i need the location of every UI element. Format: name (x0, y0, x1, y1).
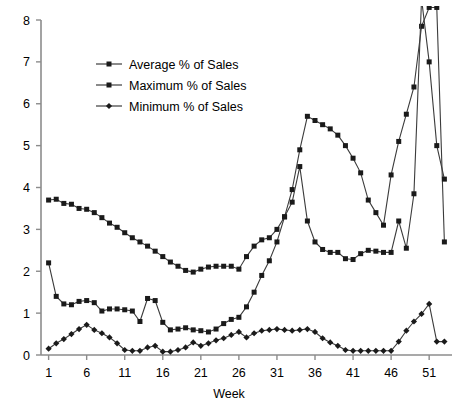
data-point (267, 258, 272, 263)
data-point (351, 257, 356, 262)
data-point (328, 126, 333, 131)
data-point (160, 254, 165, 259)
data-point (77, 206, 82, 211)
x-axis-tick-label: 31 (270, 366, 284, 380)
data-point (290, 200, 295, 205)
data-point (343, 256, 348, 261)
data-point (153, 298, 158, 303)
data-point (130, 309, 135, 314)
data-point (221, 264, 226, 269)
data-point (328, 250, 333, 255)
data-point (358, 170, 363, 175)
chart-container: 012345678 16111621263136414651 Average %… (0, 0, 459, 405)
data-point (153, 249, 158, 254)
data-point (137, 319, 142, 324)
data-point (305, 114, 310, 119)
data-point (168, 260, 173, 265)
x-axis-tick-label: 11 (118, 366, 131, 380)
data-point (373, 210, 378, 215)
data-point (297, 147, 302, 152)
data-point (404, 246, 409, 251)
y-axis-tick-label: 8 (23, 14, 30, 28)
x-axis-tick-label: 1 (45, 366, 52, 380)
data-point (61, 301, 66, 306)
data-point (191, 270, 196, 275)
data-point (313, 239, 318, 244)
data-point (297, 164, 302, 169)
y-axis-tick-label: 1 (23, 307, 30, 321)
data-point (160, 320, 165, 325)
legend-marker-icon (107, 83, 112, 88)
data-point (381, 250, 386, 255)
data-point (442, 177, 447, 182)
data-point (46, 260, 51, 265)
data-point (206, 265, 211, 270)
legend-marker-icon (107, 62, 112, 67)
x-axis-tick-label: 46 (384, 366, 398, 380)
y-axis-tick-label: 2 (23, 265, 30, 279)
data-point (107, 306, 112, 311)
data-point (427, 59, 432, 64)
data-point (373, 249, 378, 254)
x-axis-tick-label: 36 (308, 366, 322, 380)
data-point (99, 215, 104, 220)
data-point (84, 207, 89, 212)
data-point (419, 24, 424, 29)
data-point (290, 187, 295, 192)
data-point (115, 225, 120, 230)
data-point (84, 298, 89, 303)
data-point (411, 85, 416, 90)
data-point (99, 309, 104, 314)
data-point (229, 317, 234, 322)
data-point (434, 143, 439, 148)
data-point (198, 267, 203, 272)
data-point (214, 264, 219, 269)
y-axis-tick-label: 3 (23, 223, 30, 237)
x-axis-tick-label: 21 (194, 366, 208, 380)
data-point (115, 306, 120, 311)
x-axis-tick-label: 6 (83, 366, 90, 380)
data-point (335, 250, 340, 255)
data-point (183, 325, 188, 330)
x-axis-tick-label: 16 (156, 366, 170, 380)
x-axis-title: Week (213, 387, 245, 401)
data-point (236, 267, 241, 272)
data-point (358, 251, 363, 256)
data-point (183, 268, 188, 273)
data-point (176, 264, 181, 269)
x-axis-tick-label: 26 (232, 366, 246, 380)
data-point (191, 327, 196, 332)
data-point (176, 327, 181, 332)
data-point (145, 296, 150, 301)
data-point (396, 139, 401, 144)
legend-label: Maximum % of Sales (129, 79, 246, 93)
data-point (252, 290, 257, 295)
data-point (404, 112, 409, 117)
data-point (259, 237, 264, 242)
data-point (320, 247, 325, 252)
data-point (389, 172, 394, 177)
data-point (442, 239, 447, 244)
data-point (221, 321, 226, 326)
data-point (69, 202, 74, 207)
data-point (122, 307, 127, 312)
data-point (168, 327, 173, 332)
data-point (282, 214, 287, 219)
data-point (130, 235, 135, 240)
data-point (381, 223, 386, 228)
data-point (54, 294, 59, 299)
data-point (366, 248, 371, 253)
data-point (229, 264, 234, 269)
data-point (145, 244, 150, 249)
data-point (54, 197, 59, 202)
data-point (389, 250, 394, 255)
data-point (61, 201, 66, 206)
data-point (259, 273, 264, 278)
y-axis-tick-label: 5 (23, 139, 30, 153)
data-point (335, 133, 340, 138)
data-point (137, 239, 142, 244)
data-point (320, 122, 325, 127)
x-axis-tick-label: 51 (422, 366, 436, 380)
data-point (274, 227, 279, 232)
legend-label: Average % of Sales (129, 58, 239, 72)
